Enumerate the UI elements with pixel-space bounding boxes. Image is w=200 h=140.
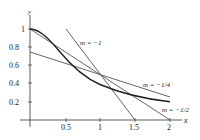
x-tick-0.5: 0.5 <box>61 123 71 132</box>
label-m-neg-1: m = −1 <box>80 39 102 47</box>
label-m-neg-quarter: m = −1/4 <box>143 81 170 89</box>
x-tick-1: 1 <box>98 123 102 132</box>
tangent-line-m-neg-quarter <box>30 52 170 97</box>
y-tick-1: 1 <box>21 25 25 34</box>
y-tick-0.8: 0.8 <box>9 43 19 52</box>
x-tick-2: 2 <box>167 123 171 132</box>
x-axis-label: x <box>183 116 188 125</box>
y-tick-0.4: 0.4 <box>9 79 19 88</box>
y-axis-label: y <box>27 8 32 16</box>
y-tick-0.2: 0.2 <box>9 98 19 107</box>
y-tick-0.6: 0.6 <box>9 61 19 70</box>
tangent-lines-plot: x y 0.5 1 1.5 2 0.2 0.4 0.6 0.8 1 m = −1… <box>0 0 200 140</box>
label-m-neg-half: m = −1/2 <box>162 106 189 114</box>
x-tick-1.5: 1.5 <box>129 123 139 132</box>
chart: x y 0.5 1 1.5 2 0.2 0.4 0.6 0.8 1 m = −1… <box>0 0 200 140</box>
